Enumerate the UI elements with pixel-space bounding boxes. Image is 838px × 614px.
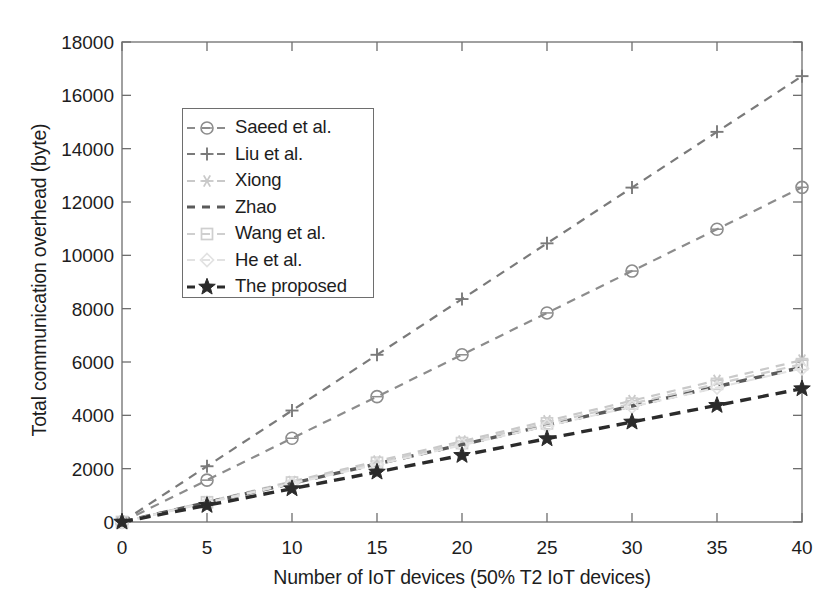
legend-marker-circle-icon	[183, 116, 235, 140]
legend-marker-asterisk-icon	[183, 169, 235, 193]
legend-label: Wang et al.	[235, 224, 326, 243]
legend-item-zhao[interactable]: Zhao	[183, 194, 373, 221]
legend-marker-plus-icon	[183, 142, 235, 166]
x-axis-tick-labels: 0510152025303540	[0, 530, 838, 570]
y-tick-label: 10000	[38, 246, 114, 265]
legend-label: Liu et al.	[235, 145, 303, 164]
legend-item-saeed-et-al[interactable]: Saeed et al.	[183, 114, 373, 141]
legend-item-he-et-al[interactable]: He et al.	[183, 247, 373, 274]
y-tick-label: 6000	[38, 353, 114, 372]
x-tick-label: 10	[262, 538, 322, 557]
legend-marker-none-icon	[183, 195, 235, 219]
chart-plot-area	[0, 0, 838, 614]
legend-item-wang-et-al[interactable]: Wang et al.	[183, 220, 373, 247]
x-tick-label: 35	[687, 538, 747, 557]
legend-marker-star-icon	[183, 275, 235, 299]
y-tick-label: 2000	[38, 460, 114, 479]
legend-item-liu-et-al[interactable]: Liu et al.	[183, 141, 373, 168]
legend-label: Zhao	[235, 198, 276, 217]
x-tick-label: 5	[177, 538, 237, 557]
x-tick-label: 15	[347, 538, 407, 557]
y-tick-label: 16000	[38, 86, 114, 105]
x-tick-label: 0	[92, 538, 152, 557]
page-caption-fragment	[60, 602, 780, 613]
y-tick-label: 14000	[38, 140, 114, 159]
y-tick-label: 4000	[38, 406, 114, 425]
y-tick-label: 12000	[38, 193, 114, 212]
x-tick-label: 40	[772, 538, 832, 557]
x-tick-label: 25	[517, 538, 577, 557]
y-tick-label: 8000	[38, 300, 114, 319]
legend-label: He et al.	[235, 251, 302, 270]
legend-item-the-proposed[interactable]: The proposed	[183, 273, 373, 300]
y-tick-label: 18000	[38, 33, 114, 52]
chart-legend: Saeed et al.Liu et al.XiongZhaoWang et a…	[182, 108, 374, 298]
series-the-proposed	[114, 380, 811, 529]
legend-label: Saeed et al.	[235, 118, 331, 137]
legend-item-xiong[interactable]: Xiong	[183, 167, 373, 194]
legend-label: Xiong	[235, 171, 281, 190]
legend-marker-square-icon	[183, 222, 235, 246]
figure-container: Total communication overhead (byte) Numb…	[0, 0, 838, 614]
y-axis-tick-labels: 0200040006000800010000120001400016000180…	[38, 0, 114, 614]
legend-marker-diamond-icon	[183, 248, 235, 272]
legend-label: The proposed	[235, 277, 347, 296]
x-tick-label: 30	[602, 538, 662, 557]
x-tick-label: 20	[432, 538, 492, 557]
